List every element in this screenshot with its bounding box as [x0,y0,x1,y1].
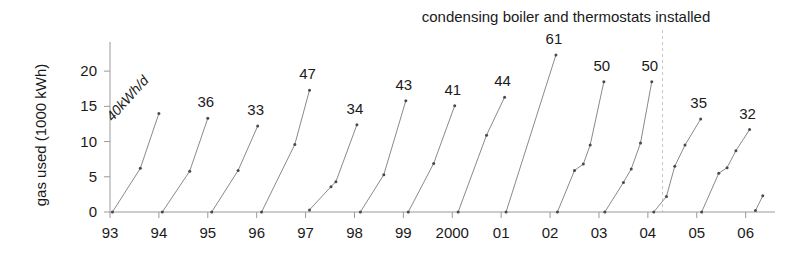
data-point [589,144,592,147]
series-line [755,196,762,211]
data-point [602,80,605,83]
series-line [654,119,701,212]
x-tick-label: 05 [688,224,705,241]
series-end-label: 61 [546,30,563,47]
data-point [355,123,358,126]
data-point [432,162,435,165]
data-point [308,89,311,92]
data-point [453,104,456,107]
data-point [260,211,263,214]
data-point [237,169,240,172]
y-tick-label: 10 [80,133,97,150]
data-point [573,169,576,172]
series-end-label: 50 [641,57,658,74]
chart-canvas: 05101520 939495969798992000010203040506 … [0,0,794,264]
data-point [761,194,764,197]
x-tick-label: 04 [640,224,657,241]
x-tick-label: 03 [591,224,608,241]
x-tick-label: 94 [151,224,168,241]
data-point [188,170,191,173]
data-point [650,80,653,83]
series-end-label: 43 [395,76,412,93]
data-point [726,166,729,169]
y-tick-label: 5 [89,168,97,185]
series-line [212,126,258,212]
data-point [700,211,703,214]
data-point [556,211,559,214]
series-line [458,97,504,212]
series-line [262,90,310,212]
data-point [330,185,333,188]
data-point [630,168,633,171]
x-tick-label: 99 [395,224,412,241]
y-tick-label: 0 [89,203,97,220]
series-line [162,118,207,212]
y-tick-label: 20 [80,62,97,79]
series-group [112,55,762,212]
series-end-label: 50 [594,57,611,74]
series-annotation-group: 40kWh/d363347344341446150503532 [103,30,756,124]
data-point [359,211,362,214]
data-point [457,211,460,214]
x-tick-label: 97 [297,224,314,241]
data-point [157,112,160,115]
data-point [334,180,337,183]
data-point [639,141,642,144]
series-line [506,55,556,212]
data-point [111,211,114,214]
chart-title: condensing boiler and thermostats instal… [422,8,711,25]
data-point [485,134,488,137]
x-tick-label: 01 [493,224,510,241]
data-point-group [111,53,764,213]
series-line [310,125,357,210]
series-line [360,101,405,212]
data-point [407,211,410,214]
data-point [603,211,606,214]
series-end-label: 47 [299,65,316,82]
x-tick-label: 02 [542,224,559,241]
data-point [505,211,508,214]
series-end-label: 41 [444,81,461,98]
data-point [699,118,702,121]
data-point [293,143,296,146]
data-point [754,209,757,212]
data-point [554,53,557,56]
series-line [557,82,603,212]
x-tick-label: 95 [199,224,216,241]
series-end-label: 44 [494,72,511,89]
data-point [622,181,625,184]
y-axis-label: gas used (1000 kWh) [32,64,49,207]
data-point [210,211,213,214]
x-tick-label: 2000 [436,224,469,241]
x-tick-label: 93 [102,224,119,241]
series-line [702,130,750,212]
x-tick-label: 96 [248,224,265,241]
data-point [748,128,751,131]
series-end-label: 35 [690,94,707,111]
x-tick-label: 98 [346,224,363,241]
y-tick-label: 15 [80,97,97,114]
data-point [665,195,668,198]
series-end-label: 32 [739,105,756,122]
data-point [404,99,407,102]
y-tick-group: 05101520 [80,62,110,220]
x-tick-label: 06 [737,224,754,241]
series-end-label: 36 [197,93,214,110]
x-tick-group: 939495969798992000010203040506 [102,212,754,241]
series-end-label: 34 [347,100,364,117]
data-point [673,165,676,168]
series-line [408,106,454,212]
data-point [734,149,737,152]
series-line [112,113,158,212]
series-end-label: 33 [247,101,264,118]
data-point [161,211,164,214]
data-point [582,163,585,166]
data-point [717,172,720,175]
data-point [256,125,259,128]
series-line [605,82,652,212]
data-point [503,96,506,99]
data-point [139,167,142,170]
data-point [206,117,209,120]
gas-usage-chart: 05101520 939495969798992000010203040506 … [0,0,794,264]
data-point [308,208,311,211]
